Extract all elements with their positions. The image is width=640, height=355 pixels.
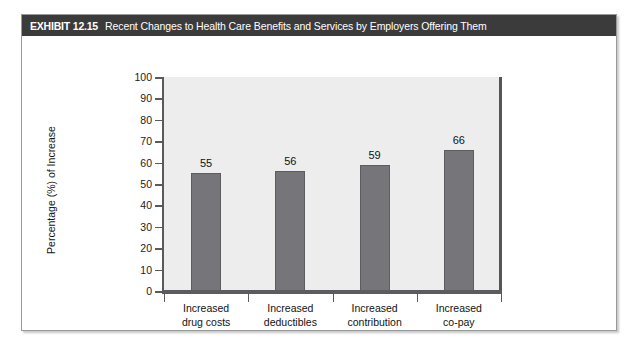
category-label-line: Increased [164, 302, 248, 316]
category-label-line: co-pay [417, 316, 501, 330]
x-axis-category-label: Increaseddeductibles [248, 302, 332, 329]
y-axis-tick-label: 10 [126, 264, 152, 275]
bar-value-label: 59 [369, 149, 381, 161]
y-axis-tick [155, 120, 163, 122]
category-label-line: contribution [333, 316, 417, 330]
y-axis-tick-labels: 0102030405060708090100 [122, 36, 152, 332]
category-label-line: drug costs [164, 316, 248, 330]
category-label-line: Increased [248, 302, 332, 316]
bar[interactable] [191, 173, 221, 291]
exhibit-number-label: EXHIBIT 12.15 [30, 20, 98, 32]
x-axis-tick [248, 293, 249, 302]
y-axis-tick [155, 227, 163, 229]
y-axis-tick [155, 270, 163, 272]
bar-value-label: 56 [284, 155, 296, 167]
x-axis-tick [164, 293, 165, 302]
y-axis-tick [155, 291, 163, 293]
bar-band [248, 77, 332, 291]
x-axis-category-label: Increasedcontribution [333, 302, 417, 329]
y-axis-tick-label: 50 [126, 179, 152, 190]
y-axis-tick [155, 184, 163, 186]
category-label-line: Increased [333, 302, 417, 316]
y-axis-tick [155, 77, 163, 79]
bar[interactable] [444, 150, 474, 291]
x-axis-category-label: Increaseddrug costs [164, 302, 248, 329]
category-label-line: deductibles [248, 316, 332, 330]
y-axis-tick-label: 80 [126, 115, 152, 126]
y-axis-tick-label: 0 [126, 286, 152, 297]
y-axis-tick [155, 141, 163, 143]
bar[interactable] [275, 171, 305, 291]
x-axis-tick [333, 293, 334, 302]
y-axis-tick [155, 98, 163, 100]
bar-chart: 0102030405060708090100 Percentage (%) of… [22, 36, 616, 332]
bar-band [164, 77, 248, 291]
bar-value-label: 55 [200, 157, 212, 169]
y-axis-tick [155, 163, 163, 165]
y-axis-tick-label: 60 [126, 157, 152, 168]
y-axis-tick-label: 90 [126, 93, 152, 104]
y-axis-tick-label: 30 [126, 222, 152, 233]
x-axis-category-label: Increasedco-pay [417, 302, 501, 329]
exhibit-header: EXHIBIT 12.15 Recent Changes to Health C… [22, 15, 616, 36]
y-axis-title: Percentage (%) of Increase [45, 110, 57, 270]
x-axis-tick [417, 293, 418, 302]
y-axis-tick [155, 248, 163, 250]
y-axis-tick-label: 20 [126, 243, 152, 254]
bar-band [333, 77, 417, 291]
exhibit-box: EXHIBIT 12.15 Recent Changes to Health C… [21, 14, 617, 331]
y-axis-tick-label: 70 [126, 136, 152, 147]
y-axis-tick-label: 100 [126, 72, 152, 83]
exhibit-title: Recent Changes to Health Care Benefits a… [105, 20, 487, 32]
x-axis-tick [501, 293, 502, 302]
bar-value-label: 66 [453, 134, 465, 146]
y-axis-tick [155, 205, 163, 207]
bar[interactable] [360, 165, 390, 291]
bar-band [417, 77, 501, 291]
y-axis-tick-label: 40 [126, 200, 152, 211]
category-label-line: Increased [417, 302, 501, 316]
